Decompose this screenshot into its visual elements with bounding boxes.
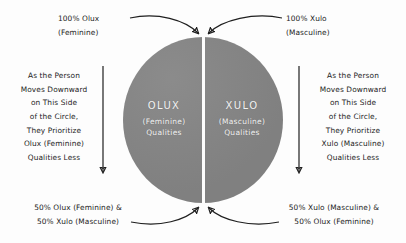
note-top-left: 100% Olux (Feminine) [58,12,128,39]
xulo-subtitle: (Masculine) [205,116,279,128]
diagram-canvas: OLUX (Feminine) Qualities XULO (Masculin… [0,0,406,243]
arrow-bottom-right-curve [209,208,279,224]
olux-title: OLUX [127,98,201,114]
arrow-top-right-curve [209,16,282,33]
olux-subtitle: (Feminine) [127,116,201,128]
olux-qualities: Qualities [127,127,201,139]
arrow-bottom-left-curve [131,208,198,224]
note-side-right: As the Person Moves Downward on This Sid… [308,69,398,165]
note-top-right: 100% Xulo (Masculine) [286,12,362,39]
note-side-left: As the Person Moves Downward on This Sid… [10,69,98,165]
xulo-qualities: Qualities [205,127,279,139]
circle-left-half-label: OLUX (Feminine) Qualities [127,98,201,139]
note-bottom-right: 50% Xulo (Masculine) & 50% Olux (Feminin… [272,201,396,228]
note-bottom-left: 50% Olux (Feminine) & 50% Xulo (Masculin… [18,201,138,228]
xulo-title: XULO [205,98,279,114]
circle-right-half-label: XULO (Masculine) Qualities [205,98,279,139]
arrow-top-left-curve [130,16,198,33]
